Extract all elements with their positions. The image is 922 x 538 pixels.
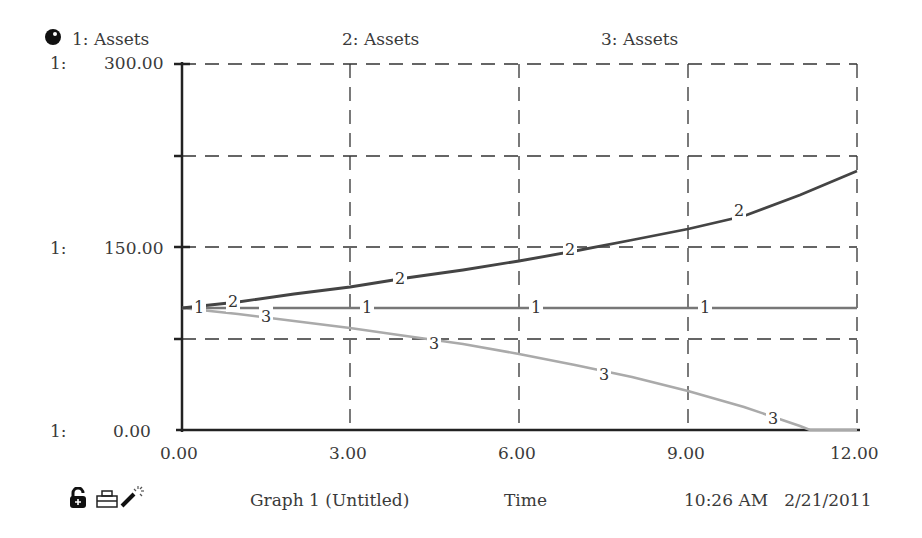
svg-text:1: 1 — [700, 298, 710, 317]
svg-text:2: 2 — [565, 240, 575, 259]
graph-title: Graph 1 (Untitled) — [250, 490, 409, 510]
svg-text:2: 2 — [734, 201, 744, 220]
marker-1: 1 — [194, 298, 204, 317]
x-axis-label: Time — [504, 490, 547, 510]
svg-text:1: 1 — [362, 298, 372, 317]
line-chart: 1 1 1 1 2 2 2 2 3 3 3 3 — [0, 0, 922, 538]
svg-text:2: 2 — [395, 269, 405, 288]
grid-lines — [182, 64, 857, 430]
svg-text:3: 3 — [599, 365, 609, 384]
svg-text:3: 3 — [261, 307, 271, 326]
svg-text:3: 3 — [429, 334, 439, 353]
svg-text:1: 1 — [531, 298, 541, 317]
svg-text:2: 2 — [228, 292, 238, 311]
svg-text:3: 3 — [768, 409, 778, 428]
timestamp: 10:26 AM 2/21/2011 — [684, 490, 871, 510]
